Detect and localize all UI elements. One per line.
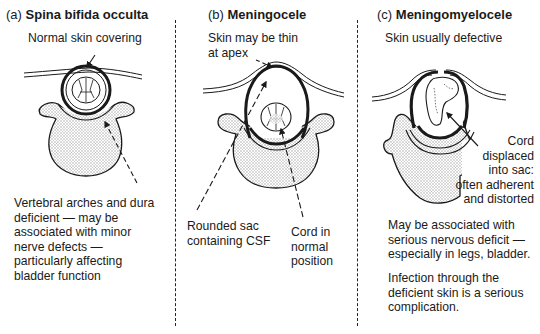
panel-c-label-deficit: May be associated with serious nervous d… [388,218,530,262]
panel-a-label-skin: Normal skin covering [28,31,142,46]
label-line: Skin may be thin [208,31,298,46]
label-line: and distorted [455,192,534,207]
panel-a-heading: Spina bifida occulta [26,7,149,22]
panel-b-title: (b) Meningocele [208,7,306,22]
panel-b-heading: Meningocele [228,7,307,22]
label-line: Infection through the [388,271,523,286]
panel-a-drawing [24,55,142,183]
label-line: deficient skin is a serious [388,286,523,301]
label-line: often adherent [455,178,534,193]
label-line: Rounded sac [187,219,270,234]
label-line: nerve defects — [14,240,154,255]
label-line: especially in legs, bladder. [388,247,530,262]
label-line: displaced [455,149,534,164]
label-line: at apex [208,46,298,61]
panel-a-label-arches: Vertebral arches and dura deficient — ma… [14,196,154,284]
label-line: into sac: [455,163,534,178]
label-line: serious nervous deficit — [388,233,530,248]
panel-c-label-skin: Skin usually defective [385,31,502,46]
panel-c-label-cord: Cord displaced into sac: often adherent … [455,134,534,207]
panel-c-title: (c) Meningomyelocele [377,7,512,22]
panel-b-label-sac: Rounded sac containing CSF [187,219,270,248]
panel-b-drawing [197,60,344,217]
label-line: May be associated with [388,218,530,233]
panel-b-label-skin: Skin may be thin at apex [208,31,298,60]
label-line: associated with minor [14,225,154,240]
panel-c-heading: Meningomyelocele [396,7,512,22]
label-line: containing CSF [187,234,270,249]
label-line: normal [291,240,333,255]
panel-b-prefix: (b) [208,7,224,22]
label-line: Cord in [291,225,333,240]
label-line: particularly affecting [14,254,154,269]
panel-c-prefix: (c) [377,7,392,22]
panel-b-label-cord: Cord in normal position [291,225,333,269]
panel-c-label-infection: Infection through the deficient skin is … [388,271,523,315]
label-line: deficient — may be [14,211,154,226]
label-line: Vertebral arches and dura [14,196,154,211]
label-line: bladder function [14,269,154,284]
label-line: complication. [388,300,523,315]
label-line: Cord [455,134,534,149]
panel-a-title: (a) Spina bifida occulta [6,7,148,22]
label-line: position [291,254,333,269]
panel-a-prefix: (a) [6,7,22,22]
